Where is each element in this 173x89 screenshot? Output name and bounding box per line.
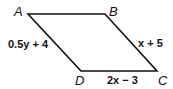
side-label-ad: 0.5y + 4 (8, 38, 49, 50)
vertex-label-c: C (158, 73, 168, 88)
vertex-label-d: D (75, 73, 84, 88)
vertex-label-b: B (109, 4, 118, 19)
side-label-bc: x + 5 (138, 37, 163, 49)
vertex-label-a: A (13, 4, 23, 19)
parallelogram-diagram: A B C D 0.5y + 4 x + 5 2x − 3 (0, 0, 173, 89)
side-label-dc: 2x − 3 (107, 74, 138, 86)
